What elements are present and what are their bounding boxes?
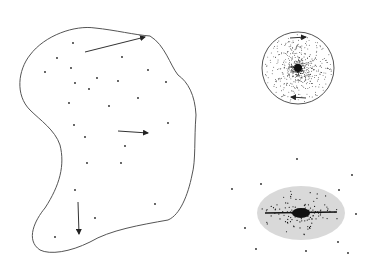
disk-star	[295, 207, 296, 208]
cluster-star	[300, 47, 301, 48]
cluster-star	[318, 77, 319, 78]
star-dot	[74, 189, 76, 191]
cluster-star	[294, 55, 295, 56]
cluster-star	[287, 70, 288, 71]
disk-star	[299, 221, 300, 222]
disk-star	[278, 213, 279, 214]
cluster-star	[316, 52, 317, 53]
cluster-star	[320, 72, 321, 73]
cluster-star	[303, 68, 304, 69]
cluster-star	[305, 53, 306, 54]
disk-star	[291, 194, 292, 195]
cluster-star	[298, 94, 299, 95]
cluster-star	[288, 42, 289, 43]
cluster-star	[275, 81, 276, 82]
cluster-star	[299, 58, 300, 59]
cluster-star	[303, 63, 304, 64]
cluster-star	[285, 59, 286, 60]
cluster-star	[299, 75, 300, 76]
velocity-arrow-icon	[118, 131, 148, 133]
cluster-star	[291, 67, 292, 68]
cluster-star	[296, 48, 297, 49]
cluster-star	[330, 69, 331, 70]
disk-star	[304, 234, 305, 235]
cluster-star	[291, 66, 292, 67]
cluster-star	[289, 74, 290, 75]
cluster-star	[281, 44, 282, 45]
cluster-star	[298, 72, 299, 73]
cluster-star	[273, 56, 274, 57]
cluster-star	[293, 81, 294, 82]
cluster-star	[305, 88, 306, 89]
cluster-star	[295, 77, 296, 78]
cluster-star	[292, 72, 293, 73]
star-dot	[121, 56, 123, 58]
cluster-star	[306, 62, 307, 63]
disk-star	[301, 220, 302, 221]
cluster-star	[304, 47, 305, 48]
disk-star	[283, 197, 284, 198]
cluster-star	[277, 46, 278, 47]
cluster-star	[291, 64, 292, 65]
cluster-star	[300, 61, 301, 62]
cluster-star	[289, 75, 290, 76]
cluster-star	[265, 64, 266, 65]
cluster-star	[296, 74, 297, 75]
disk-star	[307, 229, 308, 230]
disk-star	[336, 218, 337, 219]
cluster-star	[306, 83, 307, 84]
halo-star	[337, 241, 339, 243]
cluster-star	[282, 64, 283, 65]
cluster-star	[302, 65, 303, 66]
disk-star	[299, 227, 300, 228]
cluster-star	[294, 53, 295, 54]
cluster-star	[296, 53, 297, 54]
star-dot	[54, 236, 56, 238]
disk-star	[307, 226, 308, 227]
disk-star	[266, 209, 267, 210]
cluster-star	[306, 64, 307, 65]
star-dot	[44, 71, 46, 73]
cluster-star	[288, 38, 289, 39]
cluster-star	[331, 71, 332, 72]
cluster-star	[325, 60, 326, 61]
cluster-star	[300, 81, 301, 82]
halo-star	[338, 189, 340, 191]
cluster-star	[309, 40, 310, 41]
cluster-star	[294, 62, 295, 63]
disk-star	[290, 197, 291, 198]
cluster-star	[270, 60, 271, 61]
cluster-star	[298, 74, 299, 75]
cluster-star	[301, 64, 302, 65]
cluster-star	[304, 101, 305, 102]
halo-star	[260, 183, 262, 185]
cluster-star	[278, 62, 279, 63]
cluster-star	[266, 66, 267, 67]
cluster-star	[273, 48, 274, 49]
cluster-star	[304, 74, 305, 75]
cluster-star	[305, 75, 306, 76]
cluster-star	[290, 45, 291, 46]
cluster-star	[296, 47, 297, 48]
disk-star	[291, 219, 292, 220]
cluster-star	[277, 63, 278, 64]
cluster-star	[302, 58, 303, 59]
cluster-star	[303, 72, 304, 73]
cluster-star	[294, 61, 295, 62]
star-dot	[137, 97, 139, 99]
cluster-star	[273, 67, 274, 68]
cluster-star	[308, 74, 309, 75]
cluster-star	[306, 75, 307, 76]
cluster-star	[308, 79, 309, 80]
disk-star	[307, 219, 308, 220]
disk-star	[314, 206, 315, 207]
cluster-star	[278, 79, 279, 80]
velocity-arrow-icon	[85, 37, 145, 52]
cluster-star	[316, 75, 317, 76]
cluster-star	[298, 46, 299, 47]
disk-star	[285, 221, 286, 222]
disk-star	[325, 195, 326, 196]
cluster-star	[278, 68, 279, 69]
cluster-star	[270, 62, 271, 63]
cluster-star	[268, 77, 269, 78]
